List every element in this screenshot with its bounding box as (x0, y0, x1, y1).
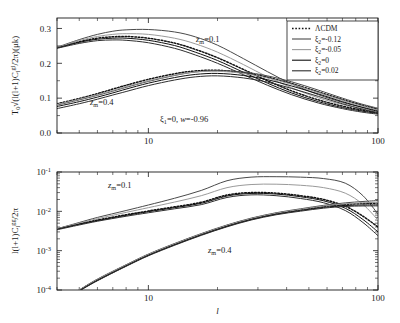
curve-bottom-zm0.1-CDM (57, 192, 378, 228)
curve-bottom-zm0.1-0 (57, 193, 378, 232)
y-tick-label: 0.3 (40, 24, 52, 34)
legend: ΛCDMξ2=-0.12ξ2=-0.05ξ2=0ξ2=0.02 (287, 21, 378, 80)
y-tick-label: 10-1 (37, 166, 51, 177)
x-tick-label: 10 (144, 136, 154, 146)
legend-label-3: ξ2=0 (315, 56, 329, 66)
annotation-bottom-zm01: zm=0.1 (107, 180, 132, 191)
figure-container: 0.00.10.20.31010010-410-310-210-110100T0… (0, 0, 400, 323)
y-tick-label: 10-2 (37, 206, 51, 217)
y-tick-label: 0.2 (40, 59, 51, 69)
y-axis-label-bottom: l(l+1)Clgg/2π (9, 207, 21, 254)
y-tick-label: 10-4 (37, 284, 52, 295)
annotation-top-params: ξ1=0, w=-0.96 (160, 114, 208, 125)
x-axis-label: l (216, 306, 219, 316)
y-axis-label-top: T0√(l(l+1)Clgl/2π)(μk) (9, 36, 21, 116)
annotation-top-zm04: zm=0.4 (89, 97, 114, 108)
x-tick-label: 100 (371, 293, 385, 303)
legend-label-0: ΛCDM (315, 24, 338, 33)
y-tick-label: 10-3 (37, 245, 51, 256)
annotation-bottom-zm04: zm=0.4 (207, 245, 232, 256)
y-tick-label: 0.1 (40, 93, 51, 103)
figure-svg: 0.00.10.20.31010010-410-310-210-110100T0… (0, 0, 400, 323)
x-tick-label: 100 (371, 136, 385, 146)
y-tick-label: 0.0 (40, 128, 52, 138)
x-tick-label: 10 (144, 293, 154, 303)
annotation-top-zm01: zm=0.1 (195, 34, 220, 45)
